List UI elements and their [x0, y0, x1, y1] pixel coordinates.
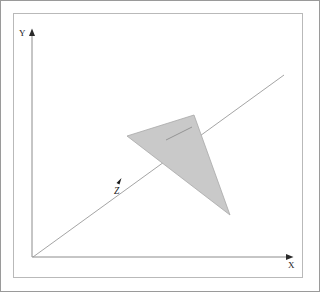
- x-axis-label: X: [288, 260, 295, 270]
- z-arrowhead-icon: [117, 178, 122, 185]
- geometry-diagram: X Y Z: [0, 0, 320, 292]
- z-label: Z: [114, 186, 120, 196]
- y-axis-arrowhead-icon: [29, 29, 35, 37]
- y-axis-label: Y: [19, 28, 26, 38]
- y-axis: Y: [19, 28, 35, 257]
- diagonal-line: [33, 75, 284, 257]
- shaded-triangle: [127, 115, 230, 215]
- x-axis: X: [32, 254, 295, 270]
- diagram-canvas: X Y Z: [0, 0, 320, 292]
